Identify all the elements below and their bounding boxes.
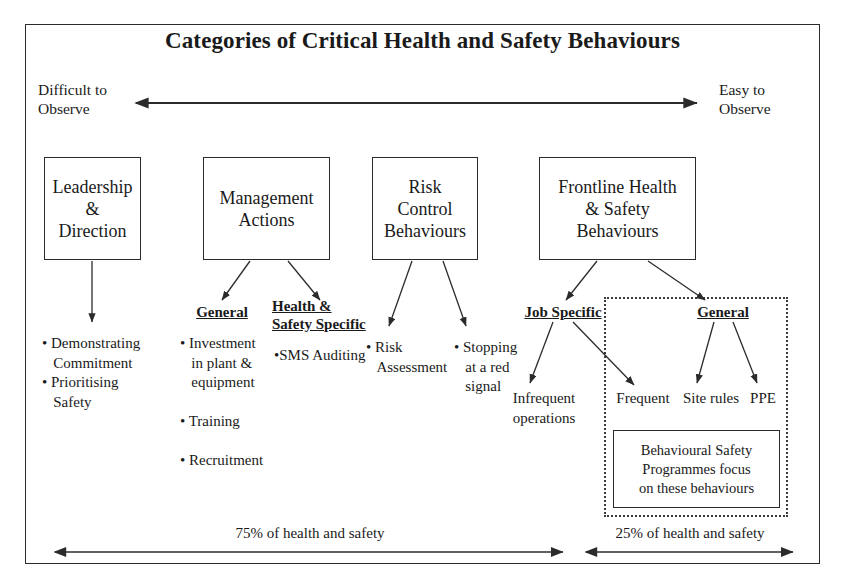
category-management-line1: Management — [220, 187, 314, 209]
axis-label-right: Easy to Observe — [719, 80, 819, 118]
category-leadership-line1: Leadership — [53, 176, 133, 198]
footer-right-percentage: 25% of health and safety — [580, 525, 800, 542]
risk-bullet2-line1: • Stopping — [454, 338, 544, 358]
risk-bullet1-line1: • Risk — [366, 338, 466, 358]
mg-bullet-line7: • Recruitment — [180, 451, 290, 471]
category-management-line2: Actions — [220, 209, 314, 231]
risk-assessment-bullet: • Risk Assessment — [366, 338, 466, 377]
axis-label-left-line2: Observe — [38, 99, 148, 118]
leadership-bullet-line1: • Demonstrating — [42, 334, 192, 354]
category-risk-line1: Risk — [384, 176, 466, 198]
category-box-frontline: Frontline Health & Safety Behaviours — [539, 157, 696, 260]
page-title: Categories of Critical Health and Safety… — [40, 28, 805, 54]
mg-bullet-line4 — [180, 393, 290, 413]
management-hs-heading-line1: Health & — [272, 297, 390, 315]
leadership-bullet-line3: • Prioritising — [42, 373, 192, 393]
risk-bullet2-line2: at a red — [454, 358, 544, 378]
category-frontline-line1: Frontline Health — [558, 176, 676, 198]
axis-label-right-line2: Observe — [719, 99, 819, 118]
management-hs-heading: Health & Safety Specific — [272, 297, 390, 333]
frequent-label: Frequent — [612, 389, 674, 409]
category-box-management: Management Actions — [203, 157, 330, 260]
site-rules-label: Site rules — [680, 389, 742, 409]
focus-note-line1: Behavioural Safety — [639, 441, 754, 460]
category-leadership-line2: & — [53, 198, 133, 220]
frontline-general-heading: General — [678, 303, 768, 321]
category-risk-line3: Behaviours — [384, 220, 466, 242]
diagram-page: Categories of Critical Health and Safety… — [0, 0, 843, 587]
mg-bullet-line6 — [180, 432, 290, 452]
footer-left-percentage: 75% of health and safety — [200, 525, 420, 542]
behavioural-safety-note: Behavioural Safety Programmes focus on t… — [613, 430, 780, 508]
ppe-label: PPE — [742, 389, 784, 409]
infrequent-line1: Infrequent — [494, 389, 594, 409]
mg-bullet-line3: equipment — [180, 373, 290, 393]
focus-note-line3: on these behaviours — [639, 479, 754, 498]
axis-label-right-line1: Easy to — [719, 80, 819, 99]
management-hs-heading-line2: Safety Specific — [272, 315, 390, 333]
focus-note-line2: Programmes focus — [639, 460, 754, 479]
axis-label-left: Difficult to Observe — [38, 80, 148, 118]
mg-bullet-line5: • Training — [180, 412, 290, 432]
category-leadership-line3: Direction — [53, 220, 133, 242]
leadership-bullets: • Demonstrating Commitment • Prioritisin… — [42, 334, 192, 412]
stopping-red-signal-bullet: • Stopping at a red signal — [454, 338, 544, 397]
infrequent-operations-label: Infrequent operations — [494, 389, 594, 428]
infrequent-line2: operations — [494, 409, 594, 429]
axis-label-left-line1: Difficult to — [38, 80, 148, 99]
category-frontline-line3: Behaviours — [558, 220, 676, 242]
category-box-risk-control: Risk Control Behaviours — [372, 157, 478, 260]
category-risk-line2: Control — [384, 198, 466, 220]
frontline-job-specific-heading: Job Specific — [521, 303, 605, 321]
management-general-heading: General — [176, 303, 268, 321]
leadership-bullet-line4: Safety — [42, 393, 192, 413]
leadership-bullet-line2: Commitment — [42, 354, 192, 374]
category-frontline-line2: & Safety — [558, 198, 676, 220]
risk-bullet1-line2: Assessment — [366, 358, 466, 378]
category-box-leadership: Leadership & Direction — [44, 157, 141, 260]
